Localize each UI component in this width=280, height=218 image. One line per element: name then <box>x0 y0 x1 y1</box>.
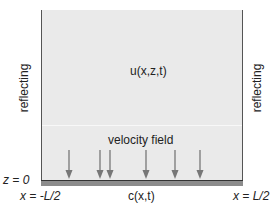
left-boundary-label: reflecting <box>17 64 31 113</box>
right-x-label: x = L/2 <box>233 189 269 203</box>
down-arrow-icon <box>170 150 180 180</box>
faint-divider <box>42 125 242 126</box>
down-arrow-icon <box>105 150 115 180</box>
down-arrow-icon <box>195 150 205 180</box>
velocity-field-label: velocity field <box>108 133 173 147</box>
down-arrow-icon <box>64 150 74 180</box>
field-label: u(x,z,t) <box>130 64 167 78</box>
surface-concentration-label: c(x,t) <box>128 189 155 203</box>
z-zero-label: z = 0 <box>3 173 29 187</box>
down-arrow-icon <box>95 150 105 180</box>
right-boundary-label: reflecting <box>250 64 264 113</box>
down-arrow-icon <box>141 150 151 180</box>
ground-surface <box>41 180 243 186</box>
left-x-label: x = -L/2 <box>20 189 60 203</box>
